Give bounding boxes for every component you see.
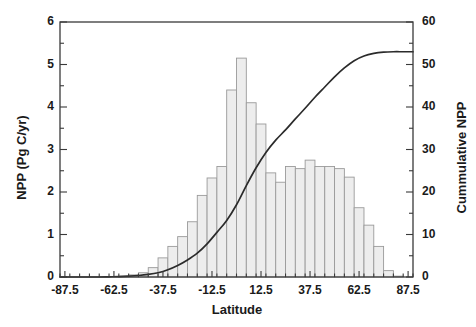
y-tick-label: 3: [16, 142, 54, 156]
bar: [178, 237, 188, 277]
y-tick-label: 4: [16, 99, 54, 113]
bar: [227, 90, 237, 277]
bar: [354, 208, 364, 277]
bar: [374, 246, 384, 277]
y2-tick-label: 40: [422, 99, 458, 113]
bar: [305, 160, 315, 277]
bar: [276, 182, 286, 277]
x-tick-label: -62.5: [88, 283, 140, 297]
x-tick-label: -37.5: [137, 283, 189, 297]
x-tick-label: 87.5: [382, 283, 434, 297]
y2-tick-label: 0: [422, 269, 458, 283]
y-tick-label: 2: [16, 184, 54, 198]
bar: [286, 167, 296, 278]
bar-series-npp: [119, 58, 403, 277]
x-tick-label: 12.5: [235, 283, 287, 297]
bar: [315, 167, 325, 278]
y2-tick-label: 50: [422, 57, 458, 71]
bar: [207, 178, 217, 277]
bar: [197, 195, 207, 277]
bar: [335, 169, 345, 277]
bar: [187, 222, 197, 277]
bar: [256, 124, 266, 277]
x-tick-label: 62.5: [333, 283, 385, 297]
y-tick-label: 0: [16, 269, 54, 283]
plot-area: [0, 0, 476, 327]
x-tick-label: 37.5: [284, 283, 336, 297]
y-tick-label: 6: [16, 14, 54, 28]
bar: [266, 173, 276, 277]
bar: [295, 169, 305, 277]
bar: [246, 103, 256, 277]
y2-tick-label: 20: [422, 184, 458, 198]
y2-tick-label: 60: [422, 14, 458, 28]
bar: [325, 167, 335, 278]
y-tick-label: 5: [16, 57, 54, 71]
bar: [237, 58, 247, 277]
y-tick-label: 1: [16, 227, 54, 241]
bar: [384, 271, 394, 277]
chart-figure: NPP (Pg C/yr) Cummulative NPP Latitude 0…: [0, 0, 476, 327]
y2-tick-label: 30: [422, 142, 458, 156]
x-tick-label: -87.5: [39, 283, 91, 297]
x-tick-label: -12.5: [186, 283, 238, 297]
bar: [168, 246, 178, 277]
bar: [344, 177, 354, 277]
y2-tick-label: 10: [422, 227, 458, 241]
bar: [364, 225, 374, 277]
